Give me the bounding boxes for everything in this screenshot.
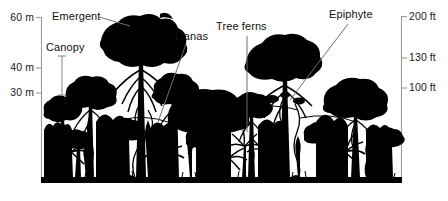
callout-label-epiphyte: Epiphyte [329,8,373,20]
callout-label-emergent: Emergent [52,10,101,22]
rainforest-profile-figure: 60 m 40 m 30 m 200 ft 130 ft 100 ft Emer… [0,0,448,201]
axis-tick-label-200ft: 200 ft [409,10,436,22]
callout-label-tree-ferns: Tree ferns [216,20,267,32]
axis-tick-label-40m: 40 m [0,61,34,73]
forest-silhouettes [41,13,405,183]
left-axis [36,17,42,180]
right-axis [402,16,408,180]
axis-tick-label-100ft: 100 ft [409,81,436,93]
tree-fern [227,130,262,178]
callout-label-canopy: Canopy [46,41,85,53]
canopy-bracket [58,56,66,95]
axis-tick-label-130ft: 130 ft [409,51,436,63]
axis-tick-label-30m: 30 m [0,86,34,98]
callout-label-lianas: Lianas [175,30,208,42]
axis-tick-label-60m: 60 m [0,11,34,23]
